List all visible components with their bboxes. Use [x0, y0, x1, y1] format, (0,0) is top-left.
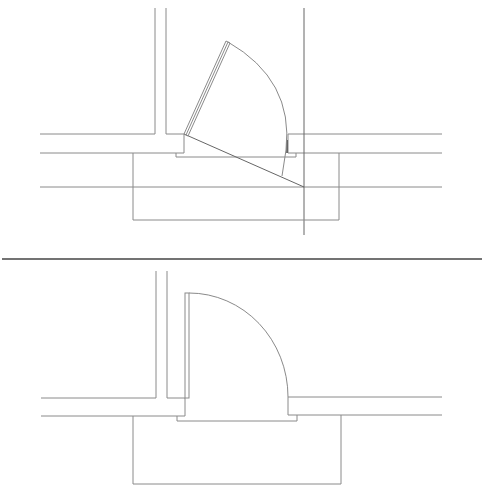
- bottom-door-plan: [41, 271, 442, 484]
- sightline-diagonal: [184, 134, 304, 187]
- threshold: [177, 415, 297, 421]
- bracket: [133, 415, 341, 484]
- floor-plan-canvas: [0, 0, 495, 497]
- door-leaf-inner: [186, 42, 228, 135]
- threshold: [176, 153, 296, 157]
- top-door-plan: [40, 8, 442, 235]
- swing-arc: [228, 42, 287, 176]
- swing-arc: [189, 293, 288, 397]
- door-leaf: [185, 293, 189, 398]
